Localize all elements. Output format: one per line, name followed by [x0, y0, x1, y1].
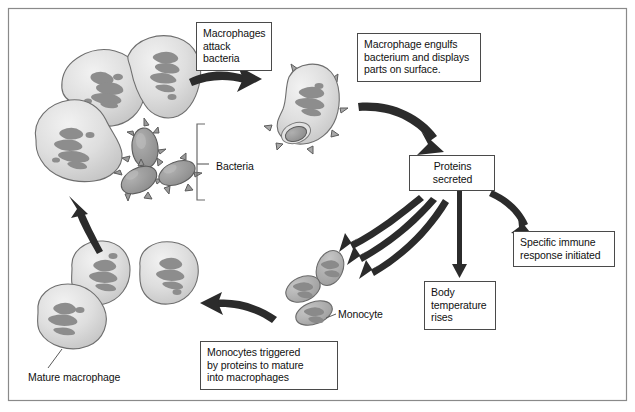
bacteria-bracket: [197, 124, 209, 200]
arrow-proteins-to-body-temp: [452, 190, 467, 278]
label-monocyte: Monocyte: [338, 308, 383, 320]
callout-specific-immune-response: Specific immune response initiated: [513, 231, 615, 267]
arrow-engulf-to-proteins: [358, 103, 444, 155]
callout-body-temperature-rises: Body temperature rises: [424, 281, 496, 330]
immune-response-diagram: Macrophages attack bacteria Macrophage e…: [0, 0, 635, 412]
callout-monocytes-triggered: Monocytes triggered by proteins to matur…: [200, 341, 338, 390]
bacterium: [155, 153, 202, 194]
label-mature-macrophage: Mature macrophage: [28, 371, 120, 383]
mature-macrophage-cluster: [38, 241, 199, 368]
arrow-proteins-to-specific-immune: [489, 190, 533, 236]
spiky-bacteria-cluster: [114, 118, 202, 201]
callout-macrophages-attack: Macrophages attack bacteria: [196, 22, 272, 71]
macrophage-cluster-attacking: [35, 36, 200, 182]
mature-macrophage-leader-line: [48, 349, 62, 368]
label-bacteria: Bacteria: [216, 160, 254, 172]
callout-proteins-secreted: Proteins secreted: [409, 155, 495, 191]
callout-macrophage-engulfs: Macrophage engulfs bacterium and display…: [357, 33, 481, 82]
arrow-monocytes-to-macrophages: [200, 292, 277, 323]
macrophage-with-engulfed-bacterium: [264, 64, 348, 154]
bacterium: [114, 159, 163, 201]
macrophage-cell: [140, 242, 199, 304]
